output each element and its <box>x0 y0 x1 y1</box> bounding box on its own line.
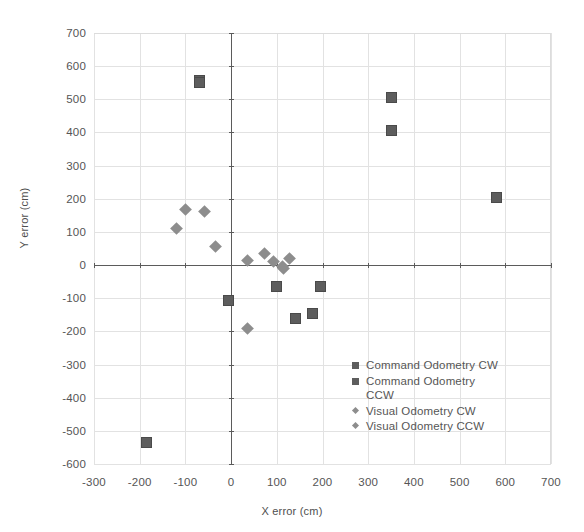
y-tick-label: -300 <box>40 359 86 371</box>
gridline-horizontal <box>94 298 551 299</box>
data-point <box>271 281 282 292</box>
data-point <box>491 192 502 203</box>
gridline-vertical <box>140 33 141 464</box>
plot-frame-top <box>94 33 551 34</box>
data-point <box>307 308 318 319</box>
data-point <box>141 437 152 448</box>
gridline-horizontal <box>94 331 551 332</box>
y-tick-mark <box>229 331 234 332</box>
y-tick-mark <box>229 132 234 133</box>
data-point <box>290 313 301 324</box>
y-tick-mark <box>229 166 234 167</box>
data-point <box>170 222 183 235</box>
y-tick-label: 200 <box>40 193 86 205</box>
data-point <box>386 125 397 136</box>
y-tick-mark <box>229 431 234 432</box>
y-tick-label: -200 <box>40 325 86 337</box>
legend-label: Command Odometry CCW <box>366 374 475 403</box>
x-tick-mark <box>231 263 232 268</box>
data-point <box>179 203 192 216</box>
legend-label: Visual Odometry CCW <box>366 419 484 434</box>
x-tick-mark <box>460 263 461 268</box>
x-tick-mark <box>414 263 415 268</box>
x-tick-mark <box>323 263 324 268</box>
y-tick-mark <box>229 232 234 233</box>
x-tick-label: 0 <box>208 476 254 488</box>
gridline-horizontal <box>94 166 551 167</box>
x-tick-label: 600 <box>482 476 528 488</box>
legend-item: Command Odometry CW <box>352 358 552 373</box>
y-tick-mark <box>229 464 234 465</box>
y-tick-mark <box>229 33 234 34</box>
data-point <box>315 281 326 292</box>
x-tick-mark <box>140 263 141 268</box>
x-tick-label: -200 <box>117 476 163 488</box>
legend-diamond-icon <box>352 419 366 428</box>
data-point <box>258 247 271 260</box>
gridline-horizontal <box>94 99 551 100</box>
legend-diamond-icon <box>352 404 366 413</box>
y-tick-mark <box>229 365 234 366</box>
legend-label: Visual Odometry CW <box>366 404 476 419</box>
data-point <box>209 240 222 253</box>
gridline-horizontal <box>94 132 551 133</box>
y-axis-label: Y error (cm) <box>18 148 30 288</box>
x-tick-mark <box>185 263 186 268</box>
scatter-chart-figure: Y error (cm) X error (cm) 70060050040030… <box>0 0 584 532</box>
legend-square-icon <box>352 358 366 369</box>
y-tick-label: 300 <box>40 160 86 172</box>
legend-item: Visual Odometry CCW <box>352 419 552 434</box>
y-tick-label: 0 <box>40 259 86 271</box>
x-tick-mark <box>368 263 369 268</box>
x-tick-label: -100 <box>162 476 208 488</box>
legend-item: Command Odometry CCW <box>352 374 552 403</box>
data-point <box>198 205 211 218</box>
y-tick-mark <box>229 398 234 399</box>
legend-item: Visual Odometry CW <box>352 404 552 419</box>
x-tick-mark <box>505 263 506 268</box>
y-tick-label: 500 <box>40 93 86 105</box>
gridline-horizontal <box>94 199 551 200</box>
x-tick-label: 400 <box>391 476 437 488</box>
y-tick-label: 400 <box>40 126 86 138</box>
gridline-vertical <box>185 33 186 464</box>
data-point <box>223 295 234 306</box>
gridline-horizontal <box>94 464 551 465</box>
y-tick-label: 700 <box>40 27 86 39</box>
gridline-vertical <box>277 33 278 464</box>
x-tick-label: 300 <box>345 476 391 488</box>
legend: Command Odometry CWCommand Odometry CCWV… <box>352 358 552 435</box>
data-point <box>386 92 397 103</box>
x-tick-mark <box>551 263 552 268</box>
y-tick-label: -600 <box>40 458 86 470</box>
data-point <box>194 77 205 88</box>
data-point <box>241 322 254 335</box>
x-tick-label: -300 <box>71 476 117 488</box>
y-tick-mark <box>229 99 234 100</box>
y-tick-mark <box>229 199 234 200</box>
y-tick-mark <box>229 66 234 67</box>
x-tick-mark <box>94 263 95 268</box>
x-tick-label: 500 <box>437 476 483 488</box>
y-tick-label: -100 <box>40 292 86 304</box>
y-tick-label: 600 <box>40 60 86 72</box>
y-axis-line <box>231 33 232 464</box>
y-tick-label: 100 <box>40 226 86 238</box>
gridline-vertical <box>94 33 95 464</box>
legend-label: Command Odometry CW <box>366 358 498 373</box>
gridline-horizontal <box>94 232 551 233</box>
x-tick-label: 100 <box>254 476 300 488</box>
x-tick-label: 700 <box>528 476 574 488</box>
y-tick-label: -500 <box>40 425 86 437</box>
x-tick-label: 200 <box>300 476 346 488</box>
gridline-vertical <box>323 33 324 464</box>
gridline-horizontal <box>94 66 551 67</box>
legend-square-icon <box>352 374 366 385</box>
y-tick-label: -400 <box>40 392 86 404</box>
x-axis-label: X error (cm) <box>0 505 584 517</box>
